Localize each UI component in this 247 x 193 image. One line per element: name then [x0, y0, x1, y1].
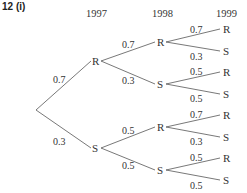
- year-1997-header: 1997: [86, 8, 107, 19]
- prob-RR-S: 0.3: [190, 51, 203, 62]
- branch-RR-S: [166, 42, 220, 51]
- prob-RS-R: 0.5: [190, 66, 203, 77]
- probability-tree-diagram: 1997 1998 1999 0.7 0.3 R S 0.7 0.3 R S 0…: [0, 0, 247, 193]
- node-1998-SR: R: [157, 121, 165, 133]
- prob-SS-S: 0.5: [190, 180, 203, 191]
- prob-root-S: 0.3: [53, 136, 66, 147]
- prob-R-R: 0.7: [122, 39, 135, 50]
- node-1999-SSS: S: [223, 174, 229, 186]
- node-1997-S: S: [92, 142, 98, 154]
- node-1999-RRS: S: [223, 45, 229, 57]
- year-1999-header: 1999: [216, 8, 237, 19]
- node-1998-SS: S: [157, 164, 163, 176]
- prob-SR-R: 0.7: [190, 109, 203, 120]
- prob-R-S: 0.3: [122, 75, 135, 86]
- node-1999-RSS: S: [223, 88, 229, 100]
- prob-RR-R: 0.7: [190, 24, 203, 35]
- prob-SR-S: 0.3: [190, 136, 203, 147]
- node-1998-RR: R: [157, 36, 165, 48]
- branch-root-R: [36, 61, 91, 110]
- prob-S-R: 0.5: [122, 125, 135, 136]
- node-1999-RRR: R: [223, 23, 231, 35]
- node-1998-RS: S: [157, 78, 163, 90]
- node-1999-SSR: R: [223, 152, 231, 164]
- prob-root-R: 0.7: [53, 74, 66, 85]
- prob-S-S: 0.5: [122, 160, 135, 171]
- branch-SS-S: [166, 170, 220, 180]
- node-1999-SRS: S: [223, 131, 229, 143]
- prob-SS-R: 0.5: [190, 152, 203, 163]
- node-1999-RSR: R: [223, 66, 231, 78]
- node-1997-R: R: [92, 55, 100, 67]
- node-1999-SRR: R: [223, 109, 231, 121]
- prob-RS-S: 0.5: [190, 93, 203, 104]
- year-1998-header: 1998: [152, 8, 173, 19]
